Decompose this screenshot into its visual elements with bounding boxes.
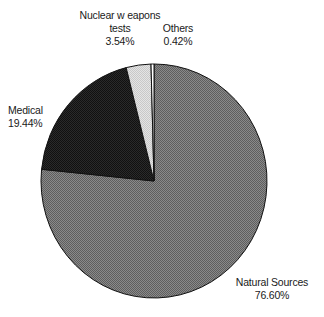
pie-chart: Nuclear w eapons tests 3.54% Others 0.42…: [0, 0, 324, 317]
nuclear-label-line1: Nuclear w eapons: [70, 9, 170, 22]
natural-label-name: Natural Sources: [232, 276, 312, 289]
others-label-pct: 0.42%: [158, 35, 198, 48]
nuclear-label-line2: tests: [70, 22, 170, 35]
nuclear-weapons-label: Nuclear w eapons tests 3.54%: [70, 9, 170, 48]
medical-label-pct: 19.44%: [8, 117, 48, 130]
natural-label-pct: 76.60%: [232, 289, 312, 302]
others-label-name: Others: [158, 22, 198, 35]
medical-label-name: Medical: [8, 104, 48, 117]
others-label: Others 0.42%: [158, 22, 198, 48]
medical-label: Medical 19.44%: [8, 104, 48, 130]
natural-sources-label: Natural Sources 76.60%: [232, 276, 312, 302]
nuclear-label-pct: 3.54%: [70, 35, 170, 48]
